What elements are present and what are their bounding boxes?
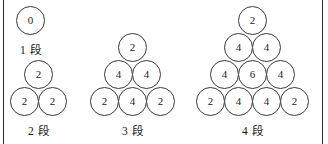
circle-cell: 0	[16, 6, 45, 35]
circle-value: 4	[144, 69, 150, 80]
circle-pile-4dan: 2444642442	[196, 6, 309, 116]
circle-value: 2	[158, 96, 164, 107]
circle-value: 6	[250, 69, 256, 80]
circle-cell: 2	[280, 87, 309, 116]
circle-value: 2	[50, 96, 56, 107]
circle-cell: 4	[132, 60, 161, 89]
circle-value: 4	[236, 96, 242, 107]
circle-pile-3dan: 244242	[90, 33, 175, 116]
circle-cell: 4	[210, 60, 239, 89]
caption-2dan: 2 段	[10, 122, 67, 138]
circle-group-4dan: 2444642442 4 段	[196, 6, 309, 116]
circle-cell: 4	[224, 33, 253, 62]
circle-value: 0	[28, 15, 34, 26]
frame-border-left	[3, 0, 4, 144]
circle-value: 4	[264, 96, 270, 107]
caption-4dan: 4 段	[196, 122, 309, 138]
circle-cell: 2	[24, 60, 53, 89]
circle-pile-2dan: 222	[10, 60, 67, 116]
circle-value: 2	[22, 96, 28, 107]
caption-3dan: 3 段	[90, 122, 175, 138]
circle-cell: 2	[238, 6, 267, 35]
circle-cell: 4	[118, 87, 147, 116]
circle-cell: 6	[238, 60, 267, 89]
circle-value: 4	[278, 69, 284, 80]
circle-group-1dan: 0 1 段	[16, 6, 45, 35]
circle-cell: 2	[38, 87, 67, 116]
circle-cell: 2	[90, 87, 119, 116]
circle-value: 4	[130, 96, 136, 107]
circle-cell: 2	[196, 87, 225, 116]
frame-border-right	[322, 0, 323, 144]
circle-cell: 2	[118, 33, 147, 62]
circle-value: 2	[130, 42, 136, 53]
circle-value: 2	[250, 15, 256, 26]
circle-cell: 2	[146, 87, 175, 116]
circle-cell: 4	[224, 87, 253, 116]
circle-group-2dan: 222 2 段	[10, 60, 67, 116]
circle-value: 2	[102, 96, 108, 107]
circle-value: 2	[36, 69, 42, 80]
circle-value: 4	[116, 69, 122, 80]
circle-cell: 4	[252, 33, 281, 62]
circle-value: 2	[292, 96, 298, 107]
circle-group-3dan: 244242 3 段	[90, 33, 175, 116]
circle-cell: 4	[104, 60, 133, 89]
figure-canvas: 0 1 段 222 2 段 244242 3 段 2444642442 4 段	[0, 0, 328, 144]
circle-value: 2	[208, 96, 214, 107]
circle-cell: 2	[10, 87, 39, 116]
circle-pile-1dan: 0	[16, 6, 45, 35]
circle-cell: 4	[266, 60, 295, 89]
circle-value: 4	[264, 42, 270, 53]
circle-value: 4	[222, 69, 228, 80]
circle-cell: 4	[252, 87, 281, 116]
circle-value: 4	[236, 42, 242, 53]
caption-1dan: 1 段	[16, 41, 45, 57]
